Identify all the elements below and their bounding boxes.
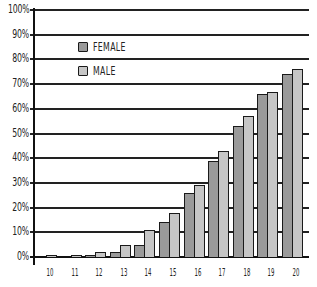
y-tick-label: 100% (8, 3, 29, 15)
legend-item-female: FEMALE (78, 41, 139, 53)
y-tick-label: 10% (8, 225, 29, 237)
bar-male-12 (95, 252, 106, 257)
legend-swatch-female (78, 42, 88, 52)
bar-male-18 (243, 116, 254, 257)
x-tick-label: 12 (93, 268, 105, 278)
bar-male-13 (120, 245, 131, 257)
x-tick-label: 13 (118, 268, 130, 278)
x-tick-label: 20 (290, 268, 302, 278)
x-tick-label: 19 (265, 268, 277, 278)
gridline (30, 58, 309, 60)
gridline (30, 9, 309, 11)
x-tick-label: 15 (167, 268, 179, 278)
legend-swatch-male (78, 66, 88, 76)
x-tick-label: 18 (241, 268, 253, 278)
gridline (30, 83, 309, 85)
gridline (30, 34, 309, 36)
legend-label-male: MALE (93, 64, 116, 78)
x-tick-label: 10 (44, 268, 56, 278)
y-tick-label: 60% (8, 102, 29, 114)
y-tick-label: 70% (8, 77, 29, 89)
legend-label-female: FEMALE (93, 40, 126, 54)
bar-male-17 (218, 151, 229, 257)
bar-male-14 (144, 230, 155, 257)
x-tick-label: 14 (142, 268, 154, 278)
legend-item-male: MALE (78, 65, 125, 77)
y-tick-label: 90% (8, 28, 29, 40)
y-tick-label: 40% (8, 151, 29, 163)
y-tick-label: 20% (8, 201, 29, 213)
bar-chart: 0%10%20%30%40%50%60%70%80%90%100% 101112… (0, 0, 317, 287)
y-axis (33, 8, 35, 265)
y-tick-label: 50% (8, 127, 29, 139)
y-tick-label: 30% (8, 176, 29, 188)
bar-male-16 (194, 185, 205, 257)
bar-male-11 (71, 255, 82, 257)
bar-male-15 (169, 213, 180, 257)
y-tick-label: 80% (8, 52, 29, 64)
bar-male-19 (267, 92, 278, 257)
x-tick-label: 11 (69, 268, 81, 278)
y-tick-label: 0% (8, 250, 29, 262)
x-tick-label: 16 (192, 268, 204, 278)
bar-male-10 (46, 255, 57, 257)
x-tick-label: 17 (216, 268, 228, 278)
bar-male-20 (292, 69, 303, 257)
